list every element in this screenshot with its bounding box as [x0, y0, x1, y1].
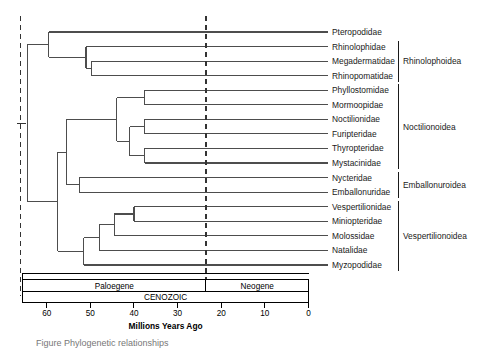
- period-label-paloegene: Paloegene: [95, 281, 134, 290]
- era-label-cenozoic: CENOZOIC: [144, 293, 187, 302]
- period-label-neogene: Neogene: [241, 281, 274, 290]
- tree-drawing-canvas: [0, 0, 486, 349]
- tip-label-myzopodidae: Myzopodidae: [332, 260, 382, 269]
- clade-label-emballonuroidea: Emballonuroidea: [403, 180, 466, 189]
- tip-label-phyllostomidae: Phyllostomidae: [332, 86, 389, 95]
- tip-label-vespertilionidae: Vespertilionidae: [332, 202, 391, 211]
- axis-tick-40: 40: [129, 309, 138, 318]
- tip-label-megadermatidae: Megadermatidae: [332, 57, 395, 66]
- tip-label-rhinolophidae: Rhinolophidae: [332, 42, 386, 51]
- axis-title: Millions Years Ago: [129, 321, 203, 331]
- axis-tick-20: 20: [217, 309, 226, 318]
- tip-label-furipteridae: Furipteridae: [332, 129, 377, 138]
- axis-tick-0: 0: [306, 309, 311, 318]
- axis-tick-30: 30: [173, 309, 182, 318]
- axis-tick-10: 10: [260, 309, 269, 318]
- axis-tick-60: 60: [42, 309, 51, 318]
- tip-label-mystacinidae: Mystacinidae: [332, 159, 381, 168]
- tip-label-mormoopidae: Mormoopidae: [332, 100, 383, 109]
- tip-label-noctilionidae: Noctilionidae: [332, 115, 380, 124]
- clade-label-noctilionoidea: Noctilionoidea: [403, 122, 456, 131]
- phylogenetic-tree-figure: PteropodidaeRhinolophidaeMegadermatidaeR…: [0, 0, 486, 349]
- clade-label-rhinolophoidea: Rhinolophoidea: [403, 57, 461, 66]
- tip-label-miniopteridae: Miniopteridae: [332, 217, 382, 226]
- tip-label-rhinopomatidae: Rhinopomatidae: [332, 71, 393, 80]
- tip-label-pteropodidae: Pteropodidae: [332, 28, 382, 37]
- clade-label-vespertilionoidea: Vespertilionoidea: [403, 231, 467, 240]
- figure-caption: Figure Phylogenetic relationships: [36, 338, 169, 348]
- tip-label-molossidae: Molossidae: [332, 231, 374, 240]
- axis-tick-50: 50: [86, 309, 95, 318]
- tip-label-nycteridae: Nycteridae: [332, 173, 372, 182]
- tip-label-thyropteridae: Thyropteridae: [332, 144, 384, 153]
- tip-label-natalidae: Natalidae: [332, 246, 367, 255]
- tip-label-emballonuridae: Emballonuridae: [332, 188, 390, 197]
